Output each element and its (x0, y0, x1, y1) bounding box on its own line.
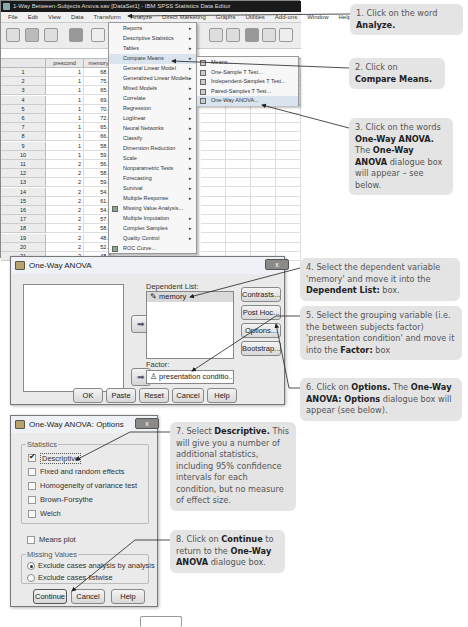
row-number[interactable]: 6 (1, 114, 46, 123)
analyze-menu-item-tables[interactable]: Tables▸ (109, 44, 196, 54)
empty-cell[interactable] (276, 234, 301, 243)
paste-button[interactable]: Paste (106, 388, 136, 403)
empty-cell[interactable] (226, 123, 251, 132)
ok-button[interactable]: OK (73, 388, 103, 403)
homogeneity-label[interactable]: Homogeneity of variance test (40, 481, 137, 490)
empty-cell[interactable] (226, 114, 251, 123)
cell-prescond[interactable]: 1 (46, 105, 84, 114)
empty-cell[interactable] (251, 206, 276, 215)
cell-prescond[interactable]: 1 (46, 68, 84, 77)
cell-prescond[interactable]: 1 (46, 151, 84, 160)
empty-cell[interactable] (226, 206, 251, 215)
row-number[interactable]: 17 (1, 215, 46, 224)
cell-prescond[interactable]: 1 (46, 114, 84, 123)
submenu-item-means[interactable]: Means... (197, 58, 298, 68)
cell-prescond[interactable]: 1 (46, 142, 84, 151)
empty-cell[interactable] (251, 132, 276, 141)
row-number[interactable]: 12 (1, 169, 46, 178)
cell-prescond[interactable]: 1 (46, 86, 84, 95)
submenu-item-one-sample-t-test[interactable]: One-Sample T Test... (197, 68, 298, 78)
empty-cell[interactable] (251, 197, 276, 206)
submenu-item-one-way-anova[interactable]: One-Way ANOVA... (197, 96, 298, 106)
empty-cell[interactable] (276, 142, 301, 151)
menu-file[interactable]: File (3, 12, 23, 22)
row-number[interactable]: 18 (1, 224, 46, 233)
analyze-menu-item-compare-means[interactable]: Compare Means▸ (109, 54, 196, 64)
continue-button[interactable]: Continue (33, 589, 67, 604)
row-number[interactable]: 8 (1, 132, 46, 141)
empty-cell[interactable] (251, 105, 276, 114)
row-number[interactable]: 9 (1, 142, 46, 151)
empty-cell[interactable] (201, 114, 226, 123)
menu-graphs[interactable]: Graphs (211, 12, 241, 22)
empty-cell[interactable] (201, 188, 226, 197)
empty-cell[interactable] (276, 224, 301, 233)
row-number[interactable]: 5 (1, 105, 46, 114)
analyze-menu-item-loglinear[interactable]: Loglinear▸ (109, 114, 196, 124)
empty-cell[interactable] (251, 160, 276, 169)
empty-cell[interactable] (226, 243, 251, 252)
empty-cell[interactable] (251, 114, 276, 123)
exclude-analysis-radio[interactable] (27, 562, 35, 570)
empty-cell[interactable] (251, 123, 276, 132)
cell-prescond[interactable]: 1 (46, 123, 84, 132)
row-number[interactable]: 2 (1, 77, 46, 86)
brown-forsythe-checkbox[interactable] (28, 496, 36, 504)
analyze-menu-item-neural-networks[interactable]: Neural Networks▸ (109, 124, 196, 134)
analyze-menu-item-scale[interactable]: Scale▸ (109, 154, 196, 164)
row-number[interactable]: 7 (1, 123, 46, 132)
menu-window[interactable]: Window (302, 12, 333, 22)
menu-view[interactable]: View (43, 12, 66, 22)
empty-cell[interactable] (251, 142, 276, 151)
analyze-menu-item-multiple-response[interactable]: Multiple Response▸ (109, 194, 196, 204)
empty-cell[interactable] (201, 151, 226, 160)
options-close-button[interactable]: x (135, 418, 159, 429)
empty-cell[interactable] (201, 215, 226, 224)
empty-cell[interactable] (251, 151, 276, 160)
undo-icon[interactable] (91, 28, 105, 42)
analyze-menu-item-complex-samples[interactable]: Complex Samples▸ (109, 224, 196, 234)
analyze-menu-item-survival[interactable]: Survival▸ (109, 184, 196, 194)
analyze-menu-item-roc-curve[interactable]: ROC Curve... (109, 244, 196, 254)
row-number[interactable]: 11 (1, 160, 46, 169)
cell-prescond[interactable]: 2 (46, 178, 84, 187)
post-hoc-button[interactable]: Post Hoc... (241, 305, 281, 320)
analyze-menu-item-mixed-models[interactable]: Mixed Models▸ (109, 84, 196, 94)
print-icon[interactable] (44, 28, 58, 42)
means-plot-label[interactable]: Means plot (39, 535, 76, 544)
empty-cell[interactable] (276, 206, 301, 215)
analyze-menu-item-classify[interactable]: Classify▸ (109, 134, 196, 144)
row-number[interactable]: 15 (1, 197, 46, 206)
cell-prescond[interactable]: 2 (46, 169, 84, 178)
empty-cell[interactable] (226, 188, 251, 197)
descriptive-checkbox[interactable] (28, 454, 36, 462)
empty-cell[interactable] (226, 234, 251, 243)
analyze-menu-item-forecasting[interactable]: Forecasting▸ (109, 174, 196, 184)
empty-cell[interactable] (251, 169, 276, 178)
homogeneity-checkbox[interactable] (28, 482, 36, 490)
analyze-menu-item-generalized-linear-models[interactable]: Generalized Linear Models▸ (109, 74, 196, 84)
help-button[interactable]: Help (207, 388, 237, 403)
row-number[interactable]: 13 (1, 178, 46, 187)
analyze-menu-item-quality-control[interactable]: Quality Control▸ (109, 234, 196, 244)
split-file-icon[interactable] (262, 28, 276, 42)
welch-label[interactable]: Welch (40, 509, 61, 518)
cell-prescond[interactable]: 1 (46, 96, 84, 105)
factor-field[interactable]: ♙ presentation conditio... (146, 370, 234, 384)
cell-prescond[interactable]: 2 (46, 188, 84, 197)
reset-button[interactable]: Reset (139, 388, 169, 403)
row-number[interactable]: 3 (1, 86, 46, 95)
dependent-list[interactable]: ✎ memory (146, 291, 234, 359)
empty-cell[interactable] (276, 105, 301, 114)
empty-cell[interactable] (201, 197, 226, 206)
menu-add-ons[interactable]: Add-ons (270, 12, 302, 22)
welch-checkbox[interactable] (28, 510, 36, 518)
fixed-random-effects-checkbox[interactable] (28, 468, 36, 476)
empty-cell[interactable] (201, 243, 226, 252)
empty-cell[interactable] (251, 178, 276, 187)
menu-edit[interactable]: Edit (23, 12, 43, 22)
submenu-item-independent-t-test[interactable]: Independent-Samples T Test... (197, 77, 298, 87)
goto-variable-icon[interactable] (226, 28, 240, 42)
empty-cell[interactable] (276, 197, 301, 206)
empty-cell[interactable] (251, 188, 276, 197)
